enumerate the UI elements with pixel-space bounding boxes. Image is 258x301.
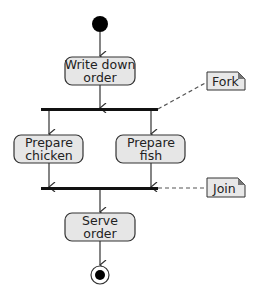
activity-label: chicken: [25, 148, 73, 163]
fork-note-connector: [158, 82, 207, 109]
activity-label: fish: [140, 148, 162, 163]
final-node: [91, 266, 109, 284]
activity-label: order: [83, 70, 117, 85]
fork-note: Fork: [207, 72, 245, 90]
activity-prepare-chicken: Prepare chicken: [14, 135, 83, 163]
activity-diagram: Write down order Fork Prepare chicken Pr…: [0, 0, 258, 301]
activity-label: order: [83, 226, 117, 241]
note-label: Join: [212, 181, 236, 196]
activity-prepare-fish: Prepare fish: [116, 135, 185, 163]
join-bar: [41, 187, 158, 190]
activity-serve-order: Serve order: [65, 213, 135, 241]
activity-write-down-order: Write down order: [65, 57, 136, 85]
initial-node: [92, 16, 108, 32]
note-label: Fork: [212, 74, 240, 89]
join-note: Join: [207, 178, 245, 197]
fork-bar: [41, 108, 158, 111]
